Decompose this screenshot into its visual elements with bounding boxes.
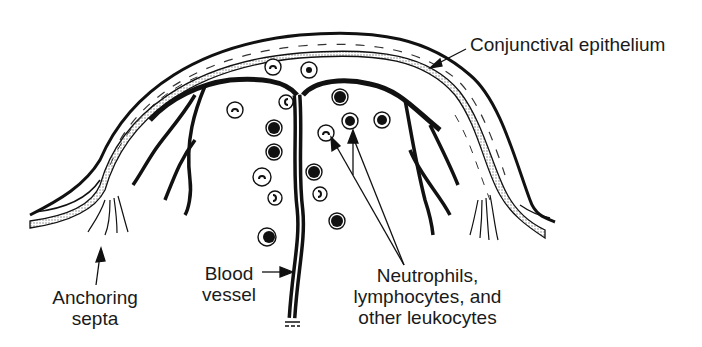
central-blood-vessel [285, 95, 301, 326]
cell [227, 102, 243, 118]
arrowhead-icon [348, 130, 358, 143]
cell [266, 144, 282, 160]
cells-leader-b [353, 137, 404, 265]
arrowhead-icon [280, 267, 293, 277]
cell [265, 59, 281, 75]
label-leukocytes: Neutrophils, lymphocytes, and other leuk… [340, 265, 515, 328]
cell [253, 168, 271, 186]
label-anchoring-septa: Anchoring septa [40, 287, 150, 329]
cell [258, 228, 276, 246]
anchoring-septa-right [470, 195, 498, 240]
cell [266, 120, 282, 136]
cell [329, 213, 345, 229]
cell [268, 191, 282, 205]
cells-leader-a [334, 142, 404, 265]
right-vessel-arcade [303, 81, 440, 130]
arrowhead-icon [96, 248, 105, 262]
cell [342, 113, 358, 129]
diagram-canvas: Conjunctival epithelium Anchoring septa … [0, 0, 702, 347]
cell [313, 187, 327, 201]
cell [332, 89, 348, 105]
cell [301, 62, 317, 78]
cell [306, 164, 322, 180]
label-blood-vessel: Blood vessel [198, 263, 260, 305]
label-conjunctival-epithelium: Conjunctival epithelium [470, 34, 665, 55]
left-vessel-arcade [150, 79, 297, 120]
cell [374, 112, 390, 128]
cell [279, 95, 293, 109]
